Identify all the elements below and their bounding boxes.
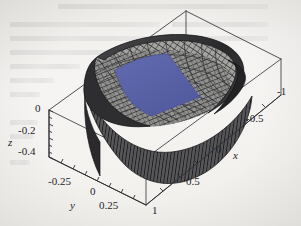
- z-tick-label-minus02: -0.2: [18, 125, 35, 136]
- z-axis-ticks: [49, 110, 53, 159]
- x-axis-name: x: [233, 150, 238, 161]
- surface-body: [84, 35, 252, 184]
- z-axis-name: z: [8, 137, 12, 148]
- y-tick-label-025: 0.25: [99, 200, 118, 211]
- x-tick-label-1: 1: [152, 205, 158, 216]
- x-tick-label-0: 0: [216, 144, 222, 155]
- x-tick-label-minus1: -1: [277, 86, 286, 97]
- y-tick-label-0: 0: [90, 186, 96, 197]
- z-tick-label-minus04: -0.4: [18, 146, 35, 157]
- figure-container: 0 -0.2 -0.4 z -0.25 0 0.25 y 1 0.5 0 -0.…: [0, 0, 301, 226]
- y-axis-name: y: [70, 200, 75, 211]
- x-tick-label-05: 0.5: [186, 176, 200, 187]
- x-tick-label-minus05: -0.5: [246, 113, 263, 124]
- z-tick-label-0: 0: [35, 103, 41, 114]
- y-tick-label-minus025: -0.25: [48, 176, 71, 187]
